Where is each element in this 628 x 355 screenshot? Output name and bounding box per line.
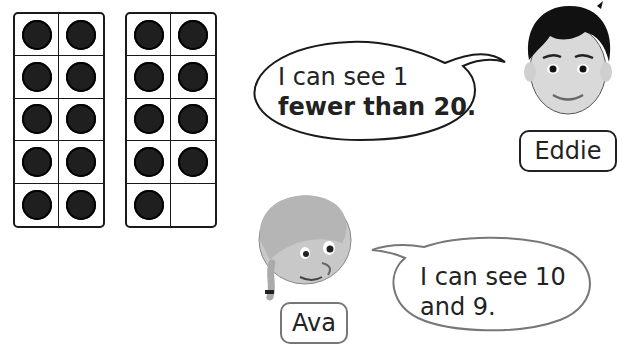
ava-speech-line-1: I can see 10 (420, 262, 566, 292)
ava-speech-text: I can see 10 and 9. (420, 262, 566, 322)
ava-speech-line-2: and 9. (420, 292, 566, 322)
